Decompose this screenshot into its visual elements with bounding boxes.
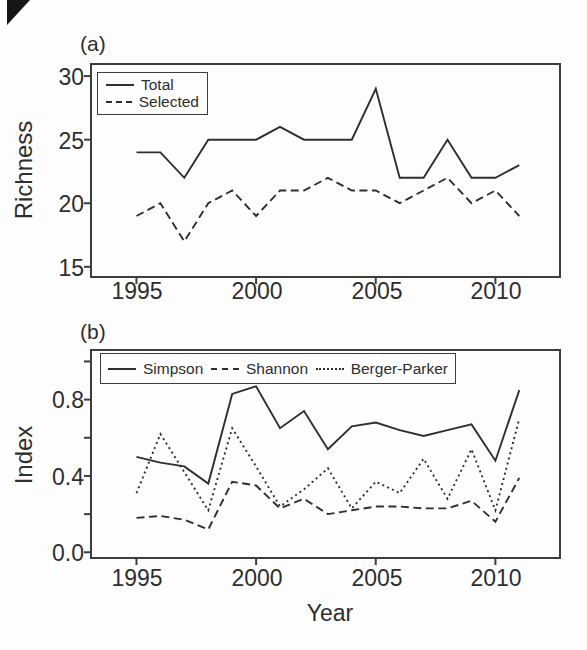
panel-b-xtick-1995: 1995 [105, 566, 169, 590]
shannon-line [137, 478, 520, 530]
panel-a-legend: Total Selected [97, 72, 208, 115]
panel-a-xtick-2000: 2000 [225, 279, 289, 303]
figure: (a) Richness 30 25 20 15 1995 2000 2005 … [0, 0, 587, 650]
simpson-line-swatch [108, 368, 136, 370]
panel-a-xtick-1995: 1995 [105, 279, 169, 303]
legend-entry-simpson: Simpson [108, 361, 203, 377]
legend-label-total: Total [141, 77, 174, 93]
legend-entry-shannon: Shannon [211, 361, 308, 377]
panel-a-ytick-20: 20 [40, 192, 84, 216]
legend-label-berger-parker: Berger-Parker [351, 361, 448, 377]
legend-label-simpson: Simpson [143, 361, 203, 377]
legend-label-shannon: Shannon [246, 361, 308, 377]
legend-entry-total: Total [106, 77, 199, 93]
total-line-swatch [106, 84, 134, 86]
panel-a-ytick-25: 25 [40, 129, 84, 153]
panel-a-y-axis-title: Richness [11, 90, 37, 250]
legend-label-selected: Selected [139, 94, 199, 110]
berger-parker-line [137, 419, 520, 511]
panel-b-tag: (b) [80, 321, 106, 343]
panel-b-legend: Simpson Shannon Berger-Parker [100, 353, 456, 384]
panel-a-ytick-15: 15 [40, 256, 84, 280]
panel-a-tag: (a) [80, 33, 106, 55]
panel-a-xtick-2010: 2010 [464, 279, 528, 303]
panel-a-ytick-30: 30 [40, 65, 84, 89]
scan-artifact-corner [7, 0, 30, 25]
selected-line-swatch [106, 101, 132, 103]
panel-b-x-axis-title: Year [270, 601, 390, 625]
panel-b-xtick-2000: 2000 [225, 566, 289, 590]
panel-b-xtick-2010: 2010 [464, 566, 528, 590]
legend-entry-berger-parker: Berger-Parker [316, 361, 448, 377]
selected-line [137, 178, 520, 242]
panel-b-ytick-00: 0.0 [40, 541, 84, 565]
panel-b-y-axis-title: Index [11, 375, 37, 535]
panel-a-xtick-2005: 2005 [345, 279, 409, 303]
panel-b-ytick-04: 0.4 [40, 465, 84, 489]
berger-parker-line-swatch [316, 368, 344, 370]
legend-entry-selected: Selected [106, 94, 199, 110]
panel-b-ytick-08: 0.8 [40, 388, 84, 412]
panel-b-xtick-2005: 2005 [345, 566, 409, 590]
shannon-line-swatch [211, 368, 239, 370]
